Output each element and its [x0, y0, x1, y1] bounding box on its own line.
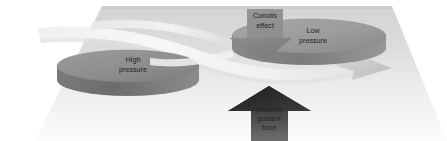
label-coriolis-effect: Coriolis effect	[253, 11, 277, 30]
high-pressure-line2: pressure	[119, 65, 147, 74]
low-pressure-line1: Low	[306, 26, 320, 35]
low-pressure-line2: pressure	[299, 36, 327, 45]
coriolis-line1: Coriolis	[253, 11, 277, 20]
gradient-force-line2: gradient	[257, 115, 281, 123]
gradient-force-line1: pressure	[256, 106, 282, 114]
high-pressure-line1: High	[126, 55, 141, 64]
coriolis-line2: effect	[256, 21, 273, 30]
pressure-gradient-diagram: High pressure Low pressure Coriolis effe…	[0, 0, 447, 141]
gradient-force-line3: force	[262, 124, 277, 131]
